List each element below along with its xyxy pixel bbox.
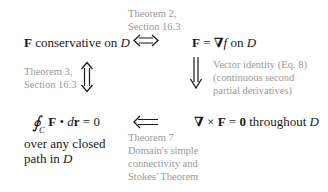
- implies-left-arrow-icon: [133, 116, 159, 128]
- nabla-icon: ∇: [194, 114, 204, 129]
- label-theorem-2: Theorem 2, Section 16.3: [128, 7, 181, 33]
- label-vector-identity: Vector identity (Eq. 8) (continuous seco…: [213, 58, 307, 97]
- double-headed-horizontal-arrow-icon: [133, 35, 159, 47]
- node-conservative: F conservative on D: [24, 35, 130, 50]
- vector-F: F: [24, 35, 32, 50]
- nabla-icon: ∇: [214, 35, 224, 50]
- label-theorem-3: Theorem 3, Section 16.3: [24, 65, 77, 91]
- circulation-equation: ∮C F • dr = 0: [24, 113, 106, 135]
- implies-down-arrow-icon: [190, 57, 202, 89]
- node-circulation: ∮C F • dr = 0 over any closed path in D: [24, 113, 106, 166]
- node-curl: ∇ × F = 0 throughout D: [194, 114, 319, 129]
- node-gradient: F = ∇f on D: [192, 35, 256, 50]
- label-theorem-7: Theorem 7 Domain's simple connectivity a…: [128, 131, 198, 183]
- double-headed-vertical-arrow-icon: [81, 62, 93, 92]
